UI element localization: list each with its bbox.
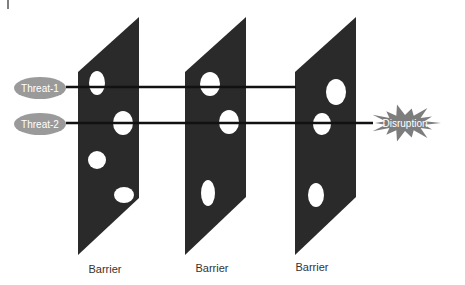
barrier-3 (295, 17, 356, 255)
barrier-2 (185, 17, 246, 255)
barrier-hole (114, 187, 134, 203)
barrier-hole (326, 79, 346, 105)
threat-1-node: Threat-1 (14, 77, 66, 99)
barrier-hole (200, 72, 220, 96)
barrier-panel (185, 17, 246, 255)
swiss-cheese-diagram: Threat-1 Threat-2 Disruption Barrier Bar… (0, 0, 465, 285)
barrier-3-label: Barrier (295, 261, 328, 273)
threat-1-label: Threat-1 (21, 83, 59, 94)
threat-2-label: Threat-2 (21, 119, 59, 130)
barrier-hole (89, 71, 105, 95)
barrier-2-label: Barrier (195, 262, 228, 274)
barrier-hole (88, 151, 106, 169)
threat-2-node: Threat-2 (14, 113, 66, 135)
barrier-hole (308, 183, 324, 207)
barrier-panel (78, 17, 139, 255)
barrier-1 (78, 17, 139, 255)
disruption-label: Disruption (382, 118, 427, 129)
barrier-1-label: Barrier (88, 263, 121, 275)
barrier-panel (295, 17, 356, 255)
barrier-hole (201, 180, 215, 206)
disruption-node: Disruption (373, 105, 441, 142)
